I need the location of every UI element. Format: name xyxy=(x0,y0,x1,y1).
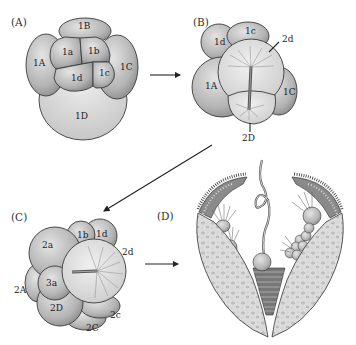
label-2D: 2D xyxy=(242,133,255,143)
label-2c: 2c xyxy=(110,310,121,320)
label-2d: 2d xyxy=(282,34,294,44)
cell-blob xyxy=(303,207,321,225)
arrow-b-to-c xyxy=(104,145,212,211)
label-2C: 2C xyxy=(86,323,99,333)
label-1A: 1A xyxy=(33,58,46,68)
label-1D: 1D xyxy=(75,111,88,121)
label-1d: 1d xyxy=(96,229,108,239)
label-2d: 2d xyxy=(122,247,134,257)
label-2a: 2a xyxy=(42,240,54,250)
panel-a-label: (A) xyxy=(11,16,27,28)
label-2D: 2D xyxy=(50,303,63,313)
figure-canvas: (A) 1B 1a 1b 1A 1C 1d 1c 1D (B) xyxy=(0,0,356,345)
cell-blob xyxy=(253,253,271,271)
label-1B: 1B xyxy=(78,21,91,31)
prototroch-left xyxy=(198,174,247,218)
panel-d-label: (D) xyxy=(157,210,174,222)
label-1b: 1b xyxy=(88,46,100,56)
panel-a: (A) 1B 1a 1b 1A 1C 1d 1c 1D xyxy=(11,16,138,140)
panel-c-label: (C) xyxy=(11,211,27,223)
panel-d: (D) xyxy=(157,160,343,337)
label-3a: 3a xyxy=(46,278,58,288)
panel-c: (C) 1b 1d 2a 2d 3a 2A 2D 2c 2C xyxy=(11,211,134,333)
panel-b: (B) 1d 1c 2d 1A 1C 2D xyxy=(192,16,297,143)
label-1d: 1d xyxy=(71,73,83,83)
panel-b-label: (B) xyxy=(193,16,209,28)
cell-2D xyxy=(228,91,276,124)
label-1A: 1A xyxy=(205,81,218,91)
label-1c: 1c xyxy=(99,68,110,78)
label-1b: 1b xyxy=(77,230,89,240)
label-1C: 1C xyxy=(120,62,133,72)
label-1c: 1c xyxy=(245,26,256,36)
label-1a: 1a xyxy=(62,47,74,57)
label-1d: 1d xyxy=(214,37,226,47)
label-1C: 1C xyxy=(283,87,296,97)
label-2A: 2A xyxy=(14,285,27,295)
